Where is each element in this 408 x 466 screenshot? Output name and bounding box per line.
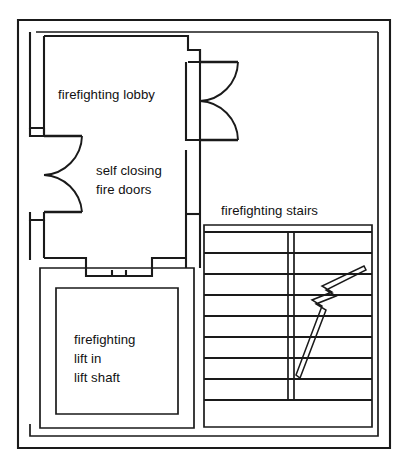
lobby-top-wall xyxy=(44,36,200,62)
label-fire-doors-line1: self closing xyxy=(96,163,162,178)
fire-door-central xyxy=(200,62,238,140)
label-lift-line3: lift shaft xyxy=(74,370,120,385)
label-firefighting-lobby: firefighting lobby xyxy=(58,87,155,102)
central-door-head-jamb xyxy=(188,50,200,62)
label-lift-line2: lift in xyxy=(74,351,101,366)
lobby-left-door-head-jamb xyxy=(30,128,44,136)
lobby-left-wall-upper xyxy=(30,32,44,128)
central-wall-lobby-face xyxy=(186,62,200,140)
lobby-bottom-wall xyxy=(44,258,86,268)
fire-door-left-swing-arc-upper xyxy=(44,136,82,175)
label-firefighting-stairs: firefighting stairs xyxy=(221,203,318,218)
label-lift-line1: firefighting xyxy=(74,332,135,347)
lift-door-leaf-right xyxy=(112,268,152,276)
floor-plan-drawing: firefighting lobby self closing fire doo… xyxy=(0,0,408,466)
lift-door-leaf-left xyxy=(86,268,126,276)
lobby-walls xyxy=(30,32,200,268)
fire-door-central-swing-arc-lower xyxy=(200,101,238,140)
lobby-bottom-wall-right xyxy=(152,258,186,268)
lift-shaft xyxy=(40,268,194,428)
lift-shaft-outer-wall xyxy=(40,268,194,428)
floor-plan-canvas: firefighting lobby self closing fire doo… xyxy=(0,0,408,466)
fire-door-left xyxy=(44,136,82,212)
lobby-left-door-sill-jamb xyxy=(30,212,44,220)
label-fire-doors-line2: fire doors xyxy=(96,182,152,197)
central-dividing-wall xyxy=(186,50,200,268)
stair-arrow-outline xyxy=(296,266,366,378)
fire-door-central-swing-arc-upper xyxy=(200,62,238,101)
fire-door-left-swing-arc-lower xyxy=(44,175,82,212)
stair-direction-arrow xyxy=(296,266,366,378)
